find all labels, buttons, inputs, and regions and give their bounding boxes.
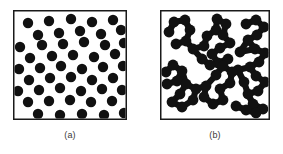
particle [201, 81, 212, 92]
particle [231, 101, 242, 112]
particle [243, 89, 254, 100]
particle [33, 30, 43, 40]
particle [188, 44, 199, 55]
particle [251, 71, 262, 82]
panel-a-canvas [13, 10, 127, 120]
particle [77, 109, 87, 119]
particle [239, 77, 250, 88]
particle [25, 53, 35, 63]
particle [225, 38, 236, 49]
particle [44, 96, 54, 106]
particle [177, 66, 188, 77]
particle [208, 99, 219, 110]
particle [116, 25, 126, 35]
particle [97, 84, 107, 94]
particle [65, 95, 75, 105]
particle [241, 19, 252, 30]
particle [87, 75, 97, 85]
particle [253, 86, 264, 97]
particle [98, 62, 108, 72]
particle [162, 79, 173, 90]
panel-b-aggregated [160, 10, 270, 120]
particle [169, 17, 180, 28]
particle [168, 60, 179, 71]
particle [202, 31, 213, 42]
particle [86, 97, 96, 107]
particle [108, 73, 118, 83]
particle [66, 72, 76, 82]
particle [235, 47, 246, 58]
particle [180, 15, 191, 26]
particle [79, 37, 89, 47]
particle [188, 95, 199, 106]
particle [100, 40, 110, 50]
particle [164, 27, 175, 38]
particle [199, 92, 210, 103]
particle [33, 109, 43, 119]
particle [68, 50, 78, 60]
particle [44, 16, 54, 26]
particle [96, 29, 106, 39]
particle [58, 39, 68, 49]
particle [117, 85, 127, 95]
particle [245, 62, 256, 73]
particle [251, 108, 262, 119]
particle [227, 67, 238, 78]
particle [56, 61, 66, 71]
panel-b-canvas [160, 10, 270, 120]
particle [197, 54, 208, 65]
particle [76, 86, 86, 96]
particle [215, 84, 226, 95]
particle [24, 75, 34, 85]
particle [191, 84, 202, 95]
particle [54, 28, 64, 38]
particle [221, 19, 232, 30]
particle [13, 86, 23, 96]
caption-panel-b: (b) [158, 130, 272, 141]
particle [181, 79, 192, 90]
particle [99, 110, 109, 120]
particle [177, 102, 188, 113]
particle [37, 40, 47, 50]
particle [55, 83, 65, 93]
particle [225, 78, 236, 89]
particle [199, 41, 210, 52]
particle [35, 63, 45, 73]
particle [15, 42, 25, 52]
particle [175, 89, 186, 100]
particle [241, 105, 252, 116]
particle [250, 44, 261, 55]
particle [110, 49, 120, 59]
particle [108, 15, 118, 25]
panel-a-dispersed [13, 10, 127, 120]
particle [167, 97, 178, 108]
particle [23, 18, 33, 28]
particle [89, 52, 99, 62]
particle [45, 73, 55, 83]
particle [218, 61, 229, 72]
particle [66, 14, 76, 24]
particle [55, 110, 65, 120]
particle [243, 35, 254, 46]
particle [23, 97, 33, 107]
particle [171, 39, 182, 50]
particle [47, 51, 57, 61]
particle [218, 95, 229, 106]
particle [207, 49, 218, 60]
particle [34, 85, 44, 95]
particle [260, 77, 270, 88]
particle [75, 26, 85, 36]
particle [107, 96, 117, 106]
figure-root: (a) (b) [0, 0, 283, 154]
particle [211, 70, 222, 81]
particle [185, 25, 196, 36]
particle [14, 64, 24, 74]
particle [87, 17, 97, 27]
particle [260, 48, 270, 59]
caption-panel-a: (a) [13, 130, 127, 141]
particle [77, 64, 87, 74]
